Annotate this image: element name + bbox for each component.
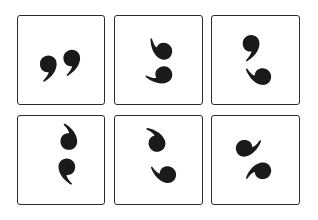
closing-double-quote-icon [18,16,104,104]
comma-pair-rotated-icon [115,16,202,104]
tile-comma-pair-s[interactable] [17,115,105,205]
comma-pair-swirl-icon [212,116,299,204]
tile-comma-pair-reverse-s[interactable] [114,115,203,205]
comma-pair-s-icon [18,116,104,204]
tile-comma-pair-rotated[interactable] [114,15,203,105]
comma-pair-vertical-icon [212,16,299,104]
comma-pair-reverse-s-icon [115,116,202,204]
tile-comma-pair-vertical[interactable] [211,15,300,105]
tile-closing-double-quote[interactable] [17,15,105,105]
tile-comma-pair-swirl[interactable] [211,115,300,205]
